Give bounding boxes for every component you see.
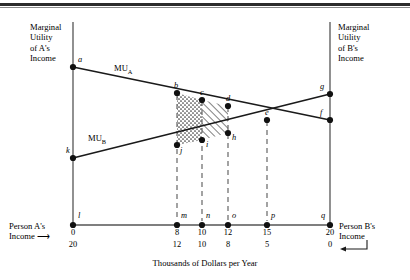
mu-a-label: MUA <box>114 63 132 77</box>
tick-value-person-a-q: 20 <box>318 228 342 238</box>
point-i <box>199 137 205 143</box>
label-i: i <box>206 140 208 150</box>
stippled-region-bcij <box>177 93 202 145</box>
label-a: a <box>78 55 82 65</box>
right-axis-title-line4: Income <box>338 53 369 63</box>
point-h <box>225 130 231 136</box>
point-k <box>70 155 76 161</box>
label-h: h <box>232 133 236 143</box>
point-f <box>327 117 333 123</box>
tick-value-person-a-n: 10 <box>190 228 214 238</box>
mu-a-label-text: MU <box>114 63 128 73</box>
tick-value-person-a-m: 8 <box>165 228 189 238</box>
tick-value-person-b-l: 20 <box>61 240 85 250</box>
mu-b-label-sub: B <box>102 138 106 145</box>
label-e: e <box>265 108 269 118</box>
tick-value-person-b-q: 0 <box>318 240 342 250</box>
label-j: j <box>180 146 182 156</box>
right-axis-title-line2: Utility <box>338 32 369 42</box>
label-g: g <box>320 82 324 92</box>
mu-b-label: MUB <box>88 133 106 147</box>
label-f: f <box>320 108 322 118</box>
label-l: l <box>78 211 80 221</box>
label-m: m <box>181 211 187 221</box>
person-a-income-line2: Income <box>9 231 35 241</box>
tick-value-person-a-p: 15 <box>255 228 279 238</box>
right-axis-title: Marginal Utility of B's Income <box>338 22 369 64</box>
left-axis-title: Marginal Utility of A's Income <box>30 22 61 64</box>
person-b-income-label: Person B's Income <box>339 221 375 241</box>
left-axis-title-line3: of A's <box>30 43 61 53</box>
left-axis-title-line2: Utility <box>30 32 61 42</box>
label-d: d <box>226 94 230 104</box>
person-b-income-line2: Income <box>339 231 375 241</box>
mu-a-label-sub: A <box>128 68 133 75</box>
tick-value-person-b-m: 12 <box>165 240 189 250</box>
person-a-income-arrow: ⟶ <box>37 231 50 241</box>
point-a <box>70 64 76 70</box>
tick-value-person-b-p: 5 <box>255 240 279 250</box>
tick-value-person-b-n: 10 <box>190 240 214 250</box>
left-axis-title-line4: Income <box>30 53 61 63</box>
point-g <box>327 91 333 97</box>
left-axis-title-line1: Marginal <box>30 22 61 32</box>
label-b: b <box>174 81 178 91</box>
mu-b-label-text: MU <box>88 133 102 143</box>
label-q: q <box>321 211 325 221</box>
right-axis-title-line3: of B's <box>338 43 369 53</box>
tick-value-person-a-o: 12 <box>216 228 240 238</box>
label-c: c <box>200 88 204 98</box>
person-a-income-line1: Person A's <box>9 221 50 231</box>
tick-value-person-a-l: 0 <box>61 228 85 238</box>
label-n: n <box>206 211 210 221</box>
label-o: o <box>232 211 236 221</box>
label-p: p <box>271 211 275 221</box>
label-k: k <box>66 146 70 156</box>
person-b-income-line1: Person B's <box>339 221 375 231</box>
tick-value-person-b-o: 8 <box>216 240 240 250</box>
right-axis-title-line1: Marginal <box>338 22 369 32</box>
x-axis-title: Thousands of Dollars per Year <box>0 258 410 268</box>
person-a-income-label: Person A's Income ⟶ <box>9 221 50 241</box>
